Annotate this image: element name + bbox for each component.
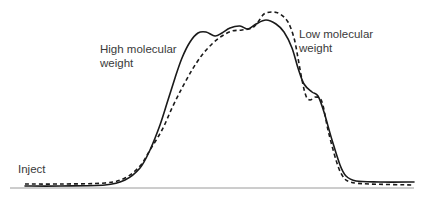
- low-label-line1: Low molecular: [299, 27, 373, 41]
- high-molecular-weight-label: High molecular weight: [100, 42, 177, 70]
- low-molecular-weight-label: Low molecular weight: [299, 27, 373, 55]
- inject-label: Inject: [18, 162, 46, 176]
- low-label-line2: weight: [299, 41, 373, 55]
- high-label-line1: High molecular: [100, 42, 177, 56]
- high-label-line2: weight: [100, 56, 177, 70]
